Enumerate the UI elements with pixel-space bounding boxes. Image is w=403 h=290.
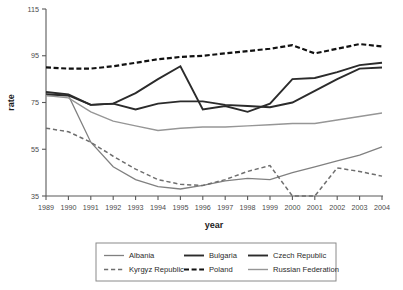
- series-line-poland: [46, 44, 382, 69]
- chart-legend: AlbaniaBulgariaCzech RepublicKyrgyz Repu…: [96, 243, 339, 281]
- x-axis-tick-label: 1993: [128, 203, 144, 212]
- x-axis-tick-label: 1990: [60, 203, 76, 212]
- series-line-czech-republic: [46, 63, 382, 112]
- y-axis: 35557595115: [28, 5, 46, 201]
- legend-label-czech-republic: Czech Republic: [273, 251, 326, 260]
- x-axis-tick-label: 1998: [240, 203, 256, 212]
- y-axis-title: rate: [6, 94, 16, 111]
- y-axis-tick-label: 95: [31, 51, 39, 60]
- line-chart: 35557595115 1989199019911992199319941995…: [0, 0, 403, 290]
- legend-label-kyrgyz-republic: Kyrgyz Republic: [129, 265, 184, 274]
- x-axis-tick-label: 1997: [217, 203, 233, 212]
- x-axis-tick-label: 1999: [262, 203, 278, 212]
- x-axis-tick-label: 2001: [307, 203, 323, 212]
- series-layer: [46, 44, 382, 196]
- x-axis: 1989199019911992199319941995199619971998…: [38, 196, 390, 212]
- x-axis-tick-label: 1994: [150, 203, 166, 212]
- x-axis-tick-label: 2003: [352, 203, 368, 212]
- series-line-russian-federation: [46, 95, 382, 130]
- x-axis-tick-label: 1995: [172, 203, 188, 212]
- legend-label-poland: Poland: [209, 265, 233, 274]
- y-axis-tick-label: 75: [31, 98, 39, 107]
- x-axis-title: year: [205, 220, 224, 230]
- series-line-albania: [46, 95, 382, 189]
- x-axis-tick-label: 2004: [374, 203, 390, 212]
- x-axis-tick-label: 1992: [105, 203, 121, 212]
- legend-label-russian-federation: Russian Federation: [273, 265, 339, 274]
- legend-label-albania: Albania: [129, 251, 155, 260]
- x-axis-tick-label: 1996: [195, 203, 211, 212]
- chart-canvas: 35557595115 1989199019911992199319941995…: [0, 0, 403, 290]
- x-axis-tick-label: 2000: [284, 203, 300, 212]
- x-axis-tick-label: 1991: [83, 203, 99, 212]
- x-axis-tick-label: 1989: [38, 203, 54, 212]
- y-axis-tick-label: 35: [31, 192, 39, 201]
- legend-label-bulgaria: Bulgaria: [209, 251, 238, 260]
- y-axis-tick-label: 115: [28, 5, 39, 14]
- y-axis-tick-label: 55: [31, 145, 39, 154]
- x-axis-tick-label: 2002: [329, 203, 345, 212]
- legend-border: [96, 243, 336, 281]
